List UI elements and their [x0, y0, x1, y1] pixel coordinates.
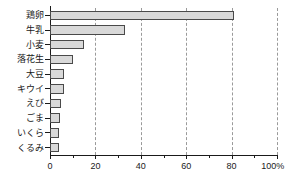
category-label-5: キウイ — [0, 84, 44, 94]
category-label-0: 鶏卵 — [0, 10, 44, 20]
table-row: 落花生 — [0, 52, 293, 67]
bar-5 — [50, 84, 64, 94]
category-label-4: 大豆 — [0, 69, 44, 79]
bar-3 — [50, 55, 73, 65]
table-row: いくら — [0, 126, 293, 141]
category-label-1: 牛乳 — [0, 25, 44, 35]
bar-1 — [50, 25, 125, 35]
category-label-2: 小麦 — [0, 40, 44, 50]
x-axis-ticks: 0 20 40 60 80 100% — [0, 155, 293, 178]
table-row: 小麦 — [0, 37, 293, 52]
xtick-20 — [95, 155, 96, 159]
bar-9 — [50, 143, 59, 153]
horizontal-bar-chart: 鶏卵 牛乳 小麦 落花生 大豆 キウイ — [0, 0, 293, 178]
xtick-label-20: 20 — [90, 161, 100, 171]
xtick-label-80: 80 — [227, 161, 237, 171]
category-label-7: ごま — [0, 113, 44, 123]
xtick-minor-50 — [164, 155, 165, 158]
xtick-label-60: 60 — [181, 161, 191, 171]
xtick-60 — [186, 155, 187, 159]
xtick-40 — [141, 155, 142, 159]
xtick-80 — [232, 155, 233, 159]
bar-rows: 鶏卵 牛乳 小麦 落花生 大豆 キウイ — [0, 8, 293, 155]
xtick-minor-90 — [254, 155, 255, 158]
bar-0 — [50, 11, 234, 21]
bar-2 — [50, 40, 84, 50]
category-label-3: 落花生 — [0, 54, 44, 64]
category-label-9: くるみ — [0, 143, 44, 153]
category-label-6: えび — [0, 98, 44, 108]
table-row: ごま — [0, 111, 293, 126]
table-row: 鶏卵 — [0, 8, 293, 23]
xtick-100 — [277, 155, 278, 159]
table-row: 大豆 — [0, 67, 293, 82]
bar-6 — [50, 99, 61, 109]
xtick-label-100: 100% — [261, 161, 284, 171]
category-label-8: いくら — [0, 128, 44, 138]
table-row: キウイ — [0, 81, 293, 96]
xtick-0 — [50, 155, 51, 159]
bar-4 — [50, 69, 64, 79]
xtick-minor-70 — [209, 155, 210, 158]
table-row: くるみ — [0, 140, 293, 155]
xtick-label-40: 40 — [136, 161, 146, 171]
table-row: 牛乳 — [0, 23, 293, 38]
table-row: えび — [0, 96, 293, 111]
xtick-minor-10 — [73, 155, 74, 158]
bar-7 — [50, 113, 60, 123]
xtick-label-0: 0 — [47, 161, 52, 171]
bar-8 — [50, 128, 59, 138]
xtick-minor-30 — [118, 155, 119, 158]
